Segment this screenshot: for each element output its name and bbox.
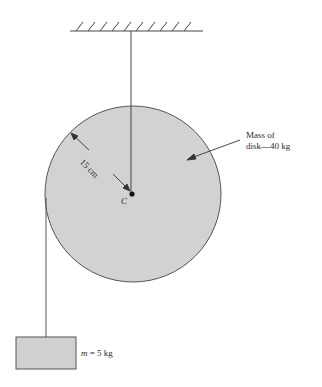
mass-label-line1: Mass of <box>246 130 290 141</box>
center-point <box>129 191 134 196</box>
center-label: C <box>121 196 127 207</box>
mass-label: Mass of disk—40 kg <box>246 130 290 152</box>
hanging-block <box>16 337 76 369</box>
mass-value: = 5 kg <box>88 348 113 358</box>
mass-label-line2: disk—40 kg <box>246 141 290 152</box>
block-mass-label: m = 5 kg <box>81 348 113 359</box>
ceiling-support <box>70 22 203 31</box>
pulley-diagram <box>0 0 322 387</box>
